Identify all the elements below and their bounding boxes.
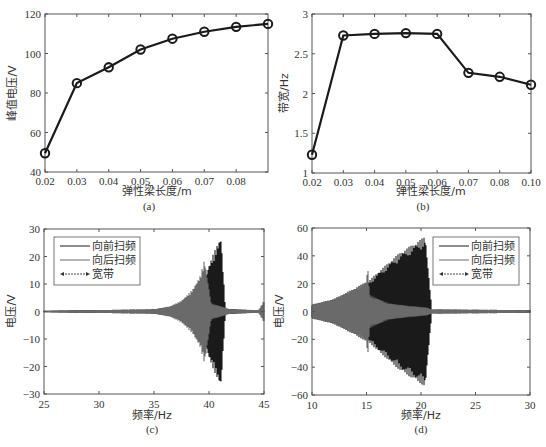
y-tick-label: 80 xyxy=(30,87,42,99)
y-tick-label: 60 xyxy=(30,127,42,139)
y-tick-label: 10 xyxy=(29,278,41,290)
legend-entry: 向前扫频 xyxy=(471,239,515,253)
y-tick-label: 3 xyxy=(303,8,309,20)
y-tick-label: 2.5 xyxy=(294,48,308,60)
x-axis-label: 弹性梁长度/m xyxy=(396,184,465,198)
plot-frame xyxy=(45,14,268,172)
x-axis-label: 频率/Hz xyxy=(401,408,441,422)
legend: 向前扫频向后扫频宽带 xyxy=(54,237,140,285)
y-tick-label: 60 xyxy=(297,222,309,234)
y-tick-label: 1.5 xyxy=(294,127,308,139)
y-axis-label: 带宽/Hz xyxy=(277,73,291,113)
x-tick-label: 0.08 xyxy=(490,176,510,188)
x-tick-label: 0.04 xyxy=(99,175,119,187)
legend-entry: 宽带 xyxy=(92,267,114,281)
x-tick-label: 0.04 xyxy=(365,176,385,188)
y-tick-label: 30 xyxy=(29,223,41,235)
y-tick-label: 0 xyxy=(303,306,309,318)
y-axis-label: 电压/V xyxy=(273,294,286,328)
y-tick-label: −20 xyxy=(23,361,41,373)
x-tick-label: 10 xyxy=(307,399,319,411)
subfigure-caption: (a) xyxy=(143,200,156,213)
plot-frame xyxy=(312,14,531,173)
x-axis-label: 频率/Hz xyxy=(132,408,172,422)
legend-entry: 宽带 xyxy=(471,267,493,281)
legend-entry: 向前扫频 xyxy=(92,239,136,253)
y-tick-label: −10 xyxy=(23,333,41,345)
y-tick-label: −40 xyxy=(291,361,309,373)
x-tick-label: 30 xyxy=(94,398,106,410)
data-line xyxy=(45,24,268,153)
y-axis-label: 峰值电压/V xyxy=(6,65,19,121)
y-axis-label: 电压/V xyxy=(5,294,18,328)
y-tick-label: −20 xyxy=(291,333,309,345)
y-tick-label: 0 xyxy=(35,306,41,318)
x-tick-label: 0.02 xyxy=(302,176,321,188)
x-tick-label: 15 xyxy=(361,399,373,411)
legend-entry: 向后扫频 xyxy=(92,253,136,267)
y-tick-label: 2 xyxy=(303,88,309,100)
figure-canvas: 4060801001200.020.030.040.050.060.070.08… xyxy=(0,0,546,447)
y-tick-label: 20 xyxy=(29,251,41,263)
data-line xyxy=(312,33,531,155)
x-tick-label: 25 xyxy=(39,398,51,410)
legend-entry: 向后扫频 xyxy=(471,253,515,267)
x-tick-label: 0.10 xyxy=(521,176,541,188)
y-tick-label: 40 xyxy=(297,250,309,262)
y-tick-label: 120 xyxy=(25,8,42,20)
x-tick-label: 40 xyxy=(204,398,216,410)
x-tick-label: 0.08 xyxy=(227,175,247,187)
x-tick-label: 0.07 xyxy=(195,175,215,187)
x-tick-label: 0.03 xyxy=(334,176,354,188)
y-tick-label: 20 xyxy=(297,278,309,290)
subfigure-caption: (d) xyxy=(415,423,428,436)
x-tick-label: 30 xyxy=(525,399,537,411)
subfigure-caption: (c) xyxy=(146,423,159,436)
x-tick-label: 0.03 xyxy=(67,175,87,187)
x-tick-label: 0.02 xyxy=(35,175,54,187)
chart-b: 11.522.530.020.030.040.050.060.070.080.1… xyxy=(277,8,541,213)
chart-a: 4060801001200.020.030.040.050.060.070.08… xyxy=(6,8,272,213)
legend: 向前扫频向后扫频宽带 xyxy=(433,237,519,285)
x-tick-label: 45 xyxy=(259,398,271,410)
chart-c: 3020100−10−20−302530354045向前扫频向后扫频宽带(c)频… xyxy=(5,223,270,436)
subfigure-caption: (b) xyxy=(417,200,430,213)
x-tick-label: 25 xyxy=(470,399,482,411)
chart-d: 6040200−20−40−601015202530向前扫频向后扫频宽带(d)频… xyxy=(273,222,536,436)
x-axis-label: 弹性梁长度/m xyxy=(122,184,191,198)
y-tick-label: 100 xyxy=(25,48,42,60)
